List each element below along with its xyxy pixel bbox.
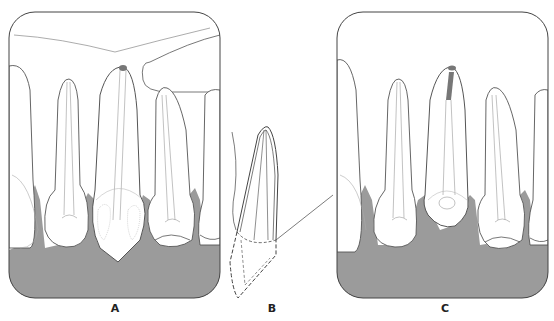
panel-c-label: C <box>435 302 455 315</box>
panel-b <box>230 127 333 298</box>
dental-diagram <box>0 0 554 321</box>
panel-a-label: A <box>105 302 125 315</box>
panel-b-label: B <box>262 302 282 315</box>
panel-c <box>337 12 548 298</box>
panel-a <box>9 12 220 298</box>
